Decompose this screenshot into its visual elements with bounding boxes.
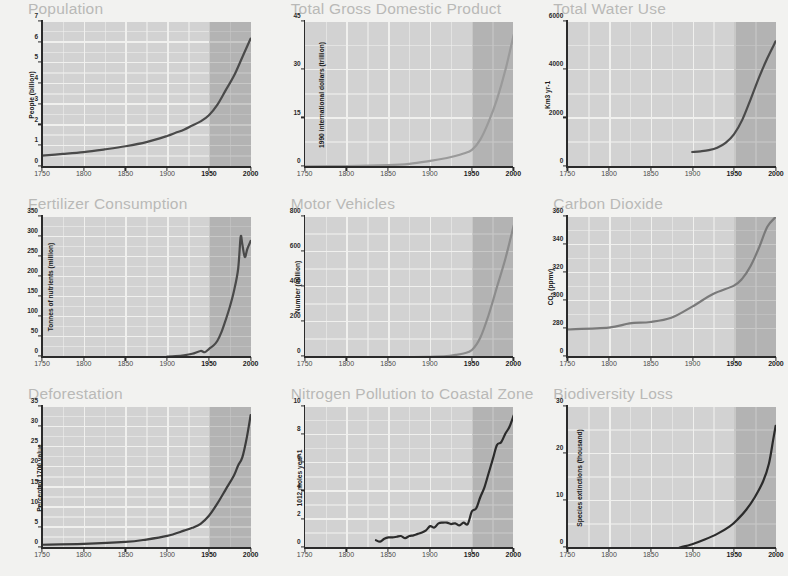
x-axis-spine [566,356,776,358]
y-axis-tick-mark [301,250,305,251]
x-axis-tick-label: 1950 [464,551,480,558]
y-axis-spine [304,20,306,167]
x-axis-tick-label: 1800 [339,170,355,177]
x-axis-tick-label: 2000 [506,170,522,177]
y-axis-spine [304,405,306,548]
x-axis-tick-label: 1950 [726,170,742,177]
x-axis-tick-mark [471,167,472,171]
series-line [693,41,776,152]
chart-title: Total Water Use [553,0,666,18]
y-axis-tick-mark [301,117,305,118]
plot-area: 0200040006000175018001850190019502000Km3… [567,22,776,167]
y-axis-spine [566,20,568,167]
data-series [42,217,251,357]
x-axis-spine [566,547,776,549]
x-axis-tick-mark [346,357,347,361]
x-axis-tick-label: 1900 [685,170,701,177]
series-line [376,415,514,541]
plot-area: 0501001502002503003501750180018501900195… [42,217,251,357]
chart-panel: Population012345671750180018501900195020… [0,0,263,195]
y-axis-tick-mark [38,295,42,296]
x-axis-tick-label: 2000 [243,360,259,367]
x-axis-tick-label: 1850 [643,360,659,367]
x-axis-tick-mark [650,167,651,171]
x-axis-tick-mark [346,167,347,171]
plot-canvas [305,22,514,167]
x-axis-tick-mark [734,167,735,171]
x-axis-tick-mark [167,357,168,361]
x-axis-tick-label: 1900 [422,360,438,367]
y-axis-tick-mark [563,117,567,118]
x-axis-tick-label: 1850 [118,551,134,558]
y-axis-label: People (billion) [28,71,35,118]
plot-canvas [567,22,776,167]
data-series [567,22,776,167]
x-axis-tick-label: 1900 [422,551,438,558]
x-axis-tick-mark [471,548,472,552]
x-axis-tick-label: 2000 [768,551,784,558]
y-axis-tick-label: 100 [27,307,38,314]
x-axis-tick-mark [250,167,251,171]
chart-panel: Carbon Dioxide02803003203403601750180018… [525,195,788,385]
y-axis-spine [566,215,568,357]
x-axis-tick-mark [41,548,42,552]
data-series [305,22,514,167]
x-axis-tick-mark [208,167,209,171]
y-axis-label: Tonnes of nutrients (million) [47,243,54,332]
chart-title: Population [28,0,103,18]
x-axis-tick-mark [83,357,84,361]
y-axis-tick-mark [38,41,42,42]
y-axis-tick-mark [38,275,42,276]
x-axis-tick-label: 2000 [243,170,259,177]
x-axis-tick-label: 1850 [380,170,396,177]
x-axis-tick-label: 1800 [601,170,617,177]
y-axis-tick-label: 35 [31,397,38,404]
y-axis-label: Number (million) [293,261,300,313]
x-axis-tick-label: 1800 [601,360,617,367]
y-axis-tick-mark [38,315,42,316]
y-axis-tick-label: 0 [560,347,564,354]
x-axis-tick-label: 1950 [464,170,480,177]
x-axis-tick-label: 2000 [506,551,522,558]
x-axis-tick-label: 1750 [34,360,50,367]
x-axis-spine [304,547,514,549]
series-line [305,226,514,357]
y-axis-tick-label: 200 [27,267,38,274]
x-axis-tick-mark [608,357,609,361]
data-series [42,407,251,548]
chart-panel: Motor Vehicles02004006008001750180018501… [263,195,526,385]
plot-area: 01530451750180018501900195020001990 inte… [305,22,514,167]
chart-panel: Fertilizer Consumption050100150200250300… [0,195,263,385]
y-axis-tick-label: 300 [27,227,38,234]
x-axis-tick-mark [513,167,514,171]
x-axis-tick-mark [167,167,168,171]
y-axis-tick-mark [38,124,42,125]
x-axis-tick-label: 2000 [768,360,784,367]
x-axis-tick-label: 1800 [339,360,355,367]
y-axis-tick-mark [563,215,567,216]
y-axis-tick-label: 360 [552,207,563,214]
series-line [680,426,776,548]
y-axis-tick-label: 2000 [549,108,563,115]
y-axis-tick-mark [563,327,567,328]
y-axis-tick-mark [301,285,305,286]
y-axis-tick-label: 150 [27,287,38,294]
x-axis-tick-label: 1800 [76,551,92,558]
x-axis-tick-label: 1850 [380,551,396,558]
x-axis-tick-mark [41,357,42,361]
x-axis-tick-mark [388,167,389,171]
series-line [167,236,250,357]
x-axis-tick-mark [567,548,568,552]
chart-title: Nitrogen Pollution to Coastal Zone [291,385,534,403]
y-axis-tick-mark [563,243,567,244]
y-axis-tick-mark [38,335,42,336]
y-axis-label: CO2 (ppmv) [547,269,556,305]
x-axis-tick-label: 1850 [380,360,396,367]
x-axis-tick-label: 1900 [159,360,175,367]
x-axis-tick-label: 1900 [422,170,438,177]
x-axis-spine [304,356,514,358]
y-axis-label: Species extinctions (thousand) [577,429,584,526]
x-axis-tick-label: 1950 [201,170,217,177]
y-axis-tick-mark [563,271,567,272]
plot-canvas [305,407,514,548]
